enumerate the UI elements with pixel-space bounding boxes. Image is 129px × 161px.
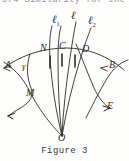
point-label-B: B: [109, 60, 115, 70]
curve-label-l1-sub: 1: [57, 20, 60, 27]
point-label-N: N: [40, 43, 47, 53]
point-label-D: D: [82, 44, 89, 54]
branch-curve-left: [8, 54, 32, 116]
figure-caption: Figure 3: [0, 146, 129, 156]
point-label-C: C: [59, 41, 66, 51]
curve-label-l2-sub: 2: [93, 21, 96, 28]
curve-label-l2: ℓ2: [88, 15, 96, 29]
figure-page: 374 Similarity for the: [0, 0, 129, 161]
point-label-O: O: [58, 133, 65, 143]
arrow-head-B: [101, 66, 108, 71]
curve-label-l1: ℓ1: [52, 14, 60, 28]
point-label-E: E: [107, 101, 113, 111]
point-label-M: M: [26, 88, 34, 98]
point-label-A: A: [5, 60, 11, 70]
curve-label-l-base: ℓ: [71, 9, 76, 21]
curve-label-l: ℓ: [71, 10, 76, 24]
angle-label-gamma: γ: [22, 62, 26, 71]
curve-O-to-A: [4, 62, 62, 136]
